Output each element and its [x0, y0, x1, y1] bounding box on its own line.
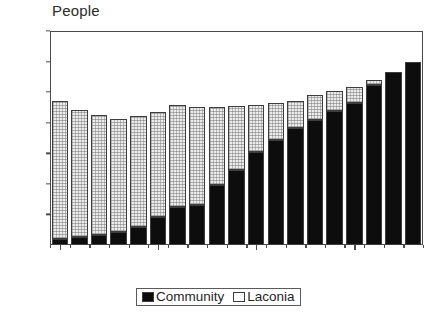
bar-segment-laconia — [150, 112, 166, 217]
bar-segment-community — [169, 207, 185, 245]
x-axis-tick-mark — [60, 245, 61, 250]
bar-series-layer — [50, 31, 423, 245]
bar-segment-community — [248, 152, 264, 245]
bar-1986 — [268, 104, 284, 245]
x-axis-minor-tick-mark — [129, 245, 130, 248]
x-axis-minor-tick-mark — [246, 245, 247, 248]
bar-segment-laconia — [248, 105, 264, 152]
bar-segment-laconia — [209, 107, 225, 185]
x-axis-minor-tick-mark — [109, 245, 110, 248]
x-axis — [50, 245, 423, 275]
x-axis-minor-tick-mark — [325, 245, 326, 248]
x-axis-minor-tick-mark — [187, 245, 188, 248]
bar-segment-laconia — [130, 116, 146, 226]
x-axis-tick-mark — [256, 245, 257, 250]
bar-1991 — [366, 81, 382, 245]
bar-segment-community — [110, 232, 126, 245]
bar-segment-community — [405, 62, 421, 245]
x-axis-minor-tick-mark — [305, 245, 306, 248]
x-axis-minor-tick-mark — [50, 245, 51, 248]
bar-segment-community — [150, 217, 166, 245]
bar-1978 — [110, 120, 126, 245]
bar-1985 — [248, 106, 264, 245]
bar-1983 — [209, 108, 225, 245]
bar-segment-community — [346, 103, 362, 245]
x-axis-tick-mark — [354, 245, 355, 250]
x-axis-minor-tick-mark — [168, 245, 169, 248]
bar-segment-laconia — [91, 115, 107, 235]
bar-segment-community — [268, 140, 284, 245]
x-axis-minor-tick-mark — [89, 245, 90, 248]
x-axis-tick-mark — [158, 245, 159, 250]
bar-1992 — [385, 72, 401, 245]
x-axis-minor-tick-mark — [384, 245, 385, 248]
x-axis-minor-tick-mark — [403, 245, 404, 248]
y-axis-tick-mark — [46, 183, 50, 184]
bar-segment-community — [130, 227, 146, 245]
bar-segment-community — [326, 111, 342, 246]
bar-segment-laconia — [326, 91, 342, 110]
chart-legend: CommunityLaconia — [136, 288, 301, 306]
y-axis-tick-mark — [46, 91, 50, 92]
bar-segment-laconia — [268, 103, 284, 139]
bar-segment-community — [307, 120, 323, 245]
legend-entry-community: Community — [142, 290, 224, 304]
y-axis-tick-mark — [46, 61, 50, 62]
bar-1993 — [405, 62, 421, 245]
bar-1989 — [326, 92, 342, 245]
x-axis-minor-tick-mark — [227, 245, 228, 248]
y-axis-tick-mark — [46, 30, 50, 31]
x-axis-minor-tick-mark — [207, 245, 208, 248]
x-axis-minor-tick-mark — [148, 245, 149, 248]
legend-entry-laconia: Laconia — [233, 290, 294, 304]
bar-segment-laconia — [346, 87, 362, 103]
bar-1984 — [228, 107, 244, 245]
bar-segment-community — [71, 237, 87, 245]
filled-black-swatch — [142, 292, 154, 302]
bar-segment-community — [189, 205, 205, 246]
bar-segment-laconia — [52, 101, 68, 239]
bar-segment-laconia — [189, 107, 205, 204]
bar-segment-community — [287, 128, 303, 245]
y-axis-title: People — [52, 2, 100, 19]
y-axis — [0, 0, 46, 313]
bar-1979 — [130, 117, 146, 245]
bar-segment-laconia — [169, 105, 185, 207]
bar-1975 — [52, 102, 68, 245]
bar-segment-laconia — [71, 110, 87, 236]
x-axis-minor-tick-mark — [344, 245, 345, 248]
x-axis-minor-tick-mark — [364, 245, 365, 248]
y-axis-tick-mark — [46, 214, 50, 215]
bar-segment-community — [366, 85, 382, 246]
chart-figure: People CommunityLaconia — [0, 0, 431, 313]
bar-1980 — [150, 113, 166, 245]
bar-segment-community — [209, 185, 225, 245]
bar-1990 — [346, 88, 362, 245]
bar-segment-laconia — [307, 95, 323, 120]
bar-segment-laconia — [228, 106, 244, 170]
y-axis-tick-mark — [46, 153, 50, 154]
bar-segment-community — [385, 72, 401, 245]
bar-segment-laconia — [110, 119, 126, 232]
x-axis-minor-tick-mark — [266, 245, 267, 248]
x-axis-minor-tick-mark — [423, 245, 424, 248]
legend-label: Community — [156, 290, 224, 304]
bar-segment-community — [228, 170, 244, 245]
x-axis-minor-tick-mark — [70, 245, 71, 248]
bar-1982 — [189, 108, 205, 245]
bar-segment-community — [91, 235, 107, 245]
bar-segment-laconia — [287, 101, 303, 128]
empty-white-swatch — [233, 292, 245, 302]
bar-1981 — [169, 106, 185, 245]
bar-1988 — [307, 96, 323, 245]
y-axis-tick-mark — [46, 122, 50, 123]
bar-1976 — [71, 111, 87, 245]
bar-1977 — [91, 116, 107, 245]
x-axis-minor-tick-mark — [286, 245, 287, 248]
legend-label: Laconia — [247, 290, 294, 304]
bar-1987 — [287, 102, 303, 245]
